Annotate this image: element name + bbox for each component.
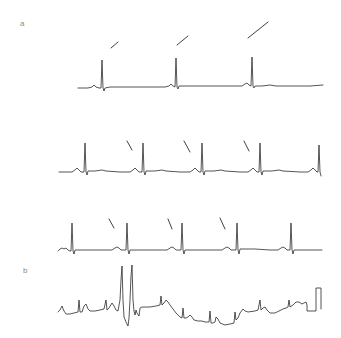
p-wave-marker [127, 141, 132, 150]
ecg-traces [0, 0, 341, 338]
p-wave-marker [244, 141, 249, 151]
strip-3-markers [109, 218, 225, 229]
p-wave-marker [177, 36, 188, 45]
p-wave-marker [111, 42, 118, 48]
p-wave-marker [168, 219, 172, 229]
p-wave-marker [220, 218, 225, 229]
strip-2-markers [127, 141, 249, 152]
ecg-strip-2 [59, 143, 321, 176]
ecg-strip-1 [78, 57, 323, 91]
p-wave-marker [248, 22, 268, 38]
p-wave-marker [109, 219, 114, 228]
panel-a [58, 22, 323, 254]
ecg-arrhythmia-strip [58, 265, 321, 326]
ecg-figure: a b [0, 0, 341, 338]
p-wave-marker [184, 141, 190, 152]
ecg-strip-3 [58, 223, 322, 254]
strip-1-markers [111, 22, 268, 48]
panel-b [58, 265, 321, 326]
